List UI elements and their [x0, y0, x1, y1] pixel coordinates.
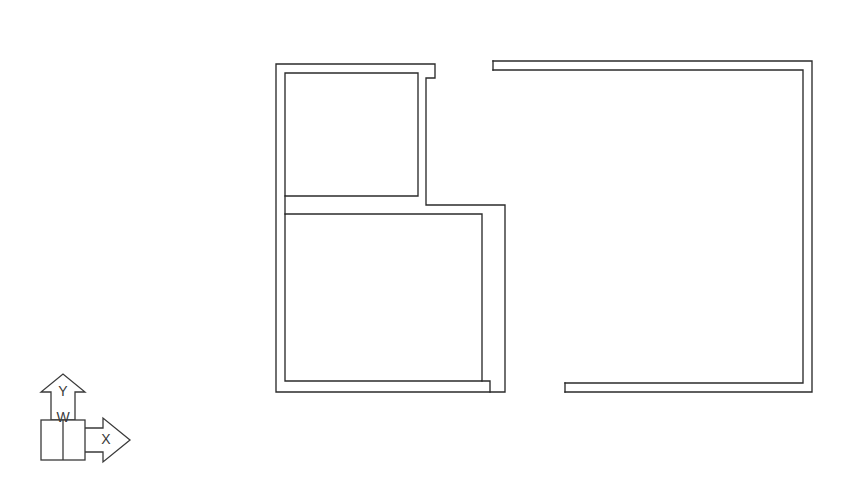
lower-left-room-inner-wall	[285, 214, 482, 381]
y-axis-label: Y	[58, 383, 68, 399]
right-room	[493, 61, 812, 392]
origin-label: W	[56, 409, 70, 425]
left-structure-outer-wall	[276, 64, 505, 392]
lower-left-room-step-cap	[482, 381, 490, 392]
upper-left-room-inner-wall	[285, 73, 418, 196]
drawing-canvas: Y W X	[0, 0, 852, 498]
left-structure	[276, 64, 505, 392]
right-room-outer-wall	[493, 61, 812, 392]
right-room-inner-wall	[493, 70, 803, 383]
floor-plan-drawing: Y W X	[0, 0, 852, 498]
xy-axis-indicator: Y W X	[41, 374, 130, 462]
x-axis-label: X	[101, 431, 111, 447]
